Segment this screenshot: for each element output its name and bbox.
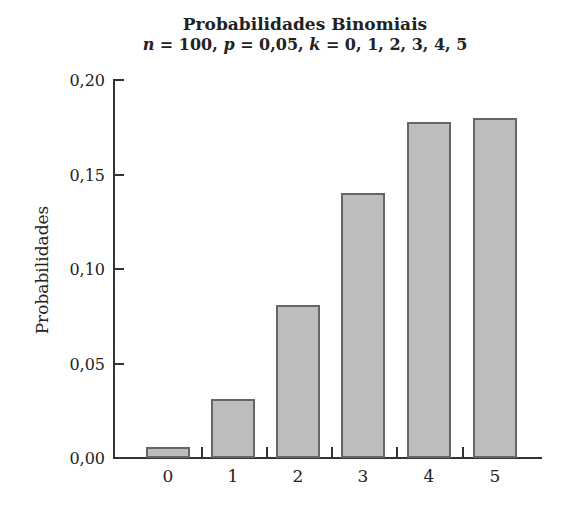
y-tick-mark xyxy=(113,174,124,176)
x-tick-mark xyxy=(396,447,398,458)
subtitle-k: k xyxy=(309,35,320,54)
x-tick-mark xyxy=(266,447,268,458)
y-tick-mark xyxy=(113,363,124,365)
y-tick-mark xyxy=(113,79,124,81)
bar-k-5 xyxy=(473,118,517,458)
y-tick-label: 0,00 xyxy=(69,449,105,468)
y-tick-label: 0,15 xyxy=(69,165,105,184)
subtitle-n: n xyxy=(143,35,155,54)
bar-k-3 xyxy=(341,193,385,458)
subtitle-p: p xyxy=(223,35,234,54)
bar-k-1 xyxy=(211,399,255,458)
x-tick-mark xyxy=(201,447,203,458)
x-tick-label: 0 xyxy=(148,466,188,486)
x-tick-mark xyxy=(331,447,333,458)
x-tick-label: 4 xyxy=(409,466,449,486)
chart-subtitle: n = 100, p = 0,05, k = 0, 1, 2, 3, 4, 5 xyxy=(95,35,515,54)
bar-k-2 xyxy=(276,305,320,458)
y-axis-label: Probabilidades xyxy=(32,206,52,335)
x-tick-label: 5 xyxy=(475,466,515,486)
y-tick-label: 0,05 xyxy=(69,354,105,373)
subtitle-n-value: = 100, xyxy=(154,35,223,54)
subtitle-p-value: = 0,05, xyxy=(235,35,310,54)
chart-title: Probabilidades Binomiais xyxy=(155,14,455,34)
y-tick-label: 0,10 xyxy=(69,260,105,279)
bar-k-4 xyxy=(407,122,451,458)
x-tick-label: 2 xyxy=(278,466,318,486)
bar-k-0 xyxy=(146,447,190,458)
y-tick-label: 0,20 xyxy=(69,71,105,90)
y-tick-mark xyxy=(113,268,124,270)
x-tick-label: 1 xyxy=(213,466,253,486)
x-tick-mark xyxy=(462,447,464,458)
x-tick-label: 3 xyxy=(343,466,383,486)
subtitle-k-values: = 0, 1, 2, 3, 4, 5 xyxy=(320,35,467,54)
